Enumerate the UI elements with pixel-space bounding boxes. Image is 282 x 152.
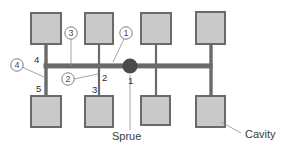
cavity-top-3 [141,13,171,44]
leader-callout-2 [74,74,98,79]
runner-system-diagram: 4 2 3 1 4 5 2 3 1 Sprue Cavity [0,0,282,152]
cavity-top-2 [85,13,113,44]
segment-label-4: 4 [34,55,39,65]
sprue-label: Sprue [112,131,141,142]
cavity-top-1 [31,13,61,44]
sprue-node [122,58,137,73]
cavity-label: Cavity [245,129,276,140]
leader-callout-1 [113,39,124,62]
cavity-bottom-2 [85,96,113,127]
callout-label-2: 2 [64,75,72,84]
cavity-bottom-1 [31,96,61,127]
callout-label-3: 3 [67,29,75,38]
segment-label-3: 3 [92,85,97,95]
segment-label-5: 5 [36,84,41,94]
segment-label-1: 1 [128,76,133,86]
diagram-canvas [0,0,282,152]
callout-label-1: 1 [122,29,130,38]
cavity-top-4 [196,12,225,44]
leader-callout-4 [22,67,44,77]
segment-label-2: 2 [102,73,107,83]
callout-label-4: 4 [13,61,21,70]
cavity-bottom-3 [141,96,170,125]
cavity-bottom-4 [196,96,225,127]
